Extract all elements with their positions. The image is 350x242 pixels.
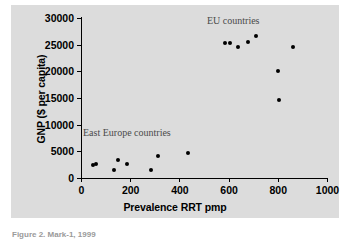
x-tick: 1000 xyxy=(327,178,328,182)
scatter-point xyxy=(246,40,250,44)
y-tick-label: 25000 xyxy=(45,39,74,51)
y-axis-line xyxy=(81,17,82,179)
scatter-point xyxy=(291,45,295,49)
scatter-point xyxy=(186,151,190,155)
y-tick-label: 10000 xyxy=(45,119,74,131)
x-tick-label: 200 xyxy=(122,184,140,196)
x-tick-label: 800 xyxy=(270,184,288,196)
scatter-point xyxy=(112,168,116,172)
scatter-point xyxy=(156,154,160,158)
y-tick: 10000 xyxy=(77,125,81,126)
scatter-point xyxy=(149,168,153,172)
x-tick-label: 1000 xyxy=(316,184,339,196)
figure-container: GNP ($ per capita) Prevalence RRT pmp 05… xyxy=(0,0,350,242)
x-tick-label: 600 xyxy=(220,184,238,196)
scatter-point xyxy=(276,69,280,73)
y-tick-label: 0 xyxy=(68,172,74,184)
x-tick-label: 400 xyxy=(171,184,189,196)
y-tick: 30000 xyxy=(77,18,81,19)
y-tick: 5000 xyxy=(77,151,81,152)
y-tick: 25000 xyxy=(77,45,81,46)
y-tick: 20000 xyxy=(77,71,81,72)
scatter-point xyxy=(228,41,232,45)
figure-caption: Figure 2. Mark-1, 1999 xyxy=(12,230,342,240)
y-tick-label: 5000 xyxy=(51,145,74,157)
x-axis-title: Prevalence RRT pmp xyxy=(11,201,339,213)
x-tick: 0 xyxy=(81,178,82,182)
y-tick-label: 30000 xyxy=(45,12,74,24)
chart-panel: GNP ($ per capita) Prevalence RRT pmp 05… xyxy=(11,5,339,218)
x-tick: 200 xyxy=(130,178,131,182)
scatter-point xyxy=(236,45,240,49)
scatter-point xyxy=(277,98,281,102)
scatter-point xyxy=(223,41,227,45)
y-tick: 15000 xyxy=(77,98,81,99)
scatter-point xyxy=(116,158,120,162)
x-tick: 400 xyxy=(179,178,180,182)
y-tick-label: 15000 xyxy=(45,92,74,104)
scatter-point xyxy=(94,162,98,166)
scatter-point xyxy=(254,34,258,38)
x-tick: 600 xyxy=(229,178,230,182)
annotation-east-europe-countries: East Europe countries xyxy=(83,127,171,138)
annotation-eu-countries: EU countries xyxy=(207,15,260,26)
x-tick: 800 xyxy=(278,178,279,182)
y-tick-label: 20000 xyxy=(45,65,74,77)
scatter-point xyxy=(125,162,129,166)
x-tick-label: 0 xyxy=(79,184,85,196)
x-axis-line xyxy=(81,178,328,179)
